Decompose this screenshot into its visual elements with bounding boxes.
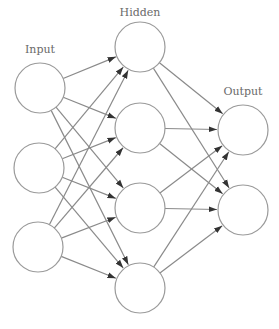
- hidden-node-2: [115, 103, 165, 153]
- hidden-layer-label: Hidden: [120, 6, 161, 19]
- edge-input3-to-hidden3: [61, 217, 115, 238]
- input-node-3: [13, 222, 63, 272]
- output-node-2: [218, 185, 268, 235]
- edge-input3-to-hidden4: [61, 256, 116, 278]
- hidden-node-1: [115, 22, 165, 72]
- input-node-2: [14, 143, 64, 193]
- edge-hidden1-to-output1: [159, 63, 222, 114]
- edge-input1-to-hidden1: [63, 57, 116, 79]
- connection-edges: [49, 57, 229, 278]
- input-layer-label: Input: [25, 43, 56, 56]
- output-node-1: [218, 105, 268, 155]
- edge-input2-to-hidden1: [55, 67, 123, 149]
- neuron-nodes: [13, 22, 268, 313]
- edge-hidden2-to-output1: [165, 128, 217, 129]
- edge-hidden4-to-output2: [160, 226, 222, 273]
- hidden-node-4: [115, 263, 165, 313]
- hidden-node-3: [115, 183, 165, 233]
- neural-network-diagram: InputHiddenOutput: [0, 0, 279, 329]
- output-layer-label: Output: [223, 85, 263, 98]
- edge-input3-to-hidden2: [54, 148, 123, 228]
- input-node-1: [15, 63, 65, 113]
